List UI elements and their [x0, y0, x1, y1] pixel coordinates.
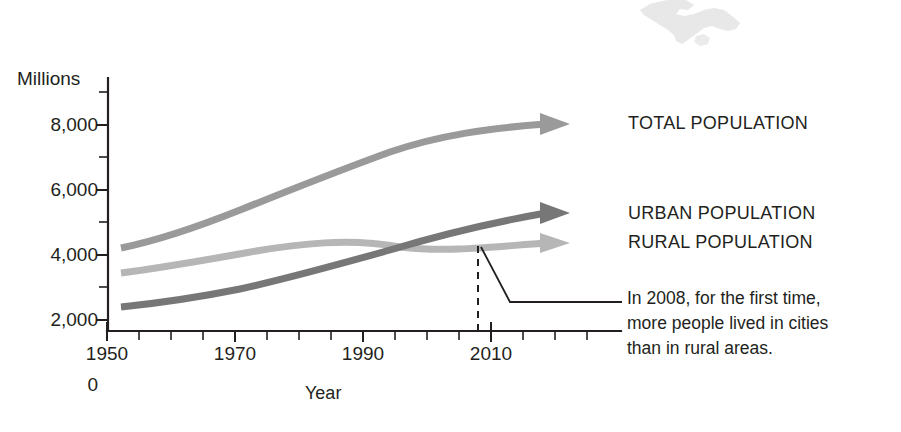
annotation-line-3: than in rural areas. — [627, 336, 889, 361]
annotation-leader-line — [481, 247, 622, 302]
series-group — [121, 113, 570, 307]
series-arrow-urban — [540, 202, 570, 224]
series-label-urban-population: URBAN POPULATION — [628, 203, 816, 224]
series-label-rural-population: RURAL POPULATION — [628, 232, 813, 253]
chart-page: Millions Year 8,000 6,000 4,000 2,000 0 … — [0, 0, 901, 432]
annotation-line-1: In 2008, for the first time, — [627, 286, 889, 311]
annotation-line-2: more people lived in cities — [627, 311, 889, 336]
series-label-total-population: TOTAL POPULATION — [628, 113, 808, 134]
series-arrow-total — [540, 113, 570, 135]
crossover-annotation: In 2008, for the first time, more people… — [627, 286, 889, 361]
series-arrow-rural — [540, 233, 570, 253]
series-line-total — [121, 124, 546, 248]
